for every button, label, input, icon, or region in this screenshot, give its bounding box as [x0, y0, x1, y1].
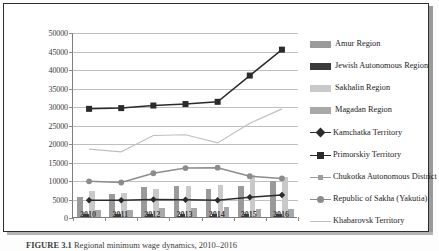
legend-line-sample [310, 128, 331, 137]
legend-line-sample [310, 151, 331, 160]
x-axis-tick [298, 217, 299, 221]
figure-border: 0500010000150002000025000300003500040000… [3, 3, 429, 232]
legend-item[interactable]: Jewish Autonomous Region [310, 60, 428, 72]
data-point-marker [247, 194, 254, 201]
chart-legend: Amur RegionJewish Autonomous RegionSakha… [310, 38, 439, 238]
figure-caption: FIGURE 3.1 Regional minimum wage dynamic… [26, 240, 426, 250]
y-axis-label: 35000 [48, 84, 68, 93]
legend-label: Jewish Autonomous Region [335, 62, 428, 70]
x-axis-label: 2010 [80, 210, 96, 219]
data-point-marker [118, 180, 124, 186]
y-axis-label: 15000 [48, 158, 68, 167]
data-point-marker [215, 99, 221, 105]
figure-root: 0500010000150002000025000300003500040000… [0, 0, 439, 251]
legend-item[interactable]: Amur Region [310, 38, 380, 50]
legend-swatch [310, 63, 331, 70]
legend-line-sample [310, 195, 331, 204]
data-point-marker [150, 196, 157, 203]
legend-line-sample [310, 173, 331, 182]
y-axis-label: 45000 [48, 47, 68, 56]
data-point-marker [150, 170, 156, 176]
caption-label: FIGURE 3.1 [26, 240, 72, 250]
legend-label: Kamchatka Territory [333, 129, 402, 137]
y-axis-label: 10000 [48, 177, 68, 186]
legend-label: Republic of Sakha (Yakutia) [333, 195, 427, 203]
y-axis-label: 30000 [48, 103, 68, 112]
legend-item[interactable]: Khabarovsk Territory [310, 216, 404, 228]
data-point-marker [182, 197, 189, 204]
legend-label: Magadan Region [335, 106, 392, 114]
plot-frame: 0500010000150002000025000300003500040000… [72, 33, 297, 218]
caption-text: Regional minimum wage dynamics, 2010–201… [74, 240, 237, 250]
y-axis-label: 25000 [48, 121, 68, 130]
legend-swatch [310, 107, 331, 114]
legend-item[interactable]: Primorskiy Territory [310, 149, 401, 161]
legend-item[interactable]: Sakhalin Region [310, 82, 390, 94]
x-axis-label: 2012 [144, 210, 160, 219]
data-point-marker [183, 101, 189, 107]
legend-marker-square [317, 152, 324, 159]
line-series-overlay [73, 33, 298, 218]
chart-area: 0500010000150002000025000300003500040000… [22, 20, 418, 225]
x-axis-label: 2016 [273, 210, 289, 219]
data-point-marker [118, 197, 125, 204]
line-path [89, 50, 282, 109]
legend-marker-tick [318, 175, 323, 180]
data-point-marker [86, 106, 92, 112]
legend-line-sample [310, 217, 331, 226]
legend-swatch [310, 85, 331, 92]
legend-item[interactable]: Republic of Sakha (Yakutia) [310, 193, 427, 205]
x-axis-label: 2014 [209, 210, 225, 219]
legend-line [310, 221, 331, 222]
legend-marker-diamond [316, 128, 326, 138]
x-axis-label: 2015 [241, 210, 257, 219]
y-axis-label: 20000 [48, 140, 68, 149]
data-point-marker [279, 47, 285, 53]
legend-item[interactable]: Chukotka Autonomous District [310, 171, 437, 183]
data-point-marker [215, 165, 221, 171]
legend-swatch [310, 41, 331, 48]
data-point-marker [86, 197, 93, 204]
legend-marker-circle [317, 196, 324, 203]
data-point-marker [214, 197, 221, 204]
legend-item[interactable]: Magadan Region [310, 105, 392, 117]
legend-label: Amur Region [335, 40, 380, 48]
legend-label: Primorskiy Territory [333, 151, 401, 159]
data-point-marker [150, 103, 156, 109]
data-point-marker [118, 105, 124, 111]
y-axis-label: 50000 [48, 29, 68, 38]
legend-label: Chukotka Autonomous District [333, 173, 437, 181]
line-path [89, 109, 282, 152]
x-axis-label: 2013 [177, 210, 193, 219]
legend-label: Khabarovsk Territory [333, 217, 404, 225]
data-point-marker [279, 192, 286, 199]
data-point-marker [279, 176, 285, 182]
y-axis-label: 40000 [48, 66, 68, 75]
legend-item[interactable]: Kamchatka Territory [310, 127, 402, 139]
data-point-marker [183, 165, 189, 171]
data-point-marker [86, 178, 92, 184]
data-point-marker [247, 73, 253, 79]
legend-label: Sakhalin Region [335, 84, 390, 92]
data-point-marker [247, 173, 253, 179]
y-axis-label: 0 [64, 214, 68, 223]
y-axis-label: 5000 [52, 195, 68, 204]
x-axis-label: 2011 [112, 210, 128, 219]
